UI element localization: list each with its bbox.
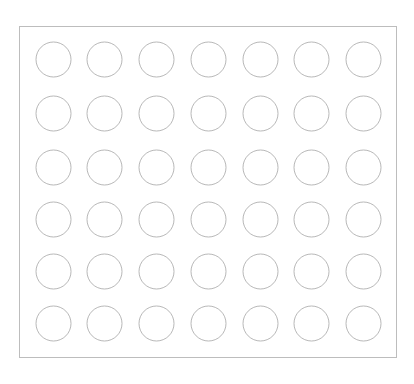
grid-cell-circle[interactable] [139, 150, 174, 185]
grid-cell-circle[interactable] [346, 150, 381, 185]
grid-cell-circle[interactable] [139, 96, 174, 131]
circle-grid [0, 0, 414, 384]
grid-cell-circle[interactable] [191, 254, 226, 289]
grid-cell-circle[interactable] [139, 254, 174, 289]
grid-cell-circle[interactable] [243, 254, 278, 289]
grid-cell-circle[interactable] [191, 306, 226, 341]
grid-cell-circle[interactable] [346, 96, 381, 131]
grid-cell-circle[interactable] [139, 202, 174, 237]
grid-cell-circle[interactable] [191, 202, 226, 237]
grid-cell-circle[interactable] [243, 150, 278, 185]
grid-cell-circle[interactable] [346, 254, 381, 289]
grid-cell-circle[interactable] [36, 150, 71, 185]
board-canvas [0, 0, 414, 384]
grid-cell-circle[interactable] [36, 306, 71, 341]
grid-cell-circle[interactable] [36, 202, 71, 237]
grid-cell-circle[interactable] [191, 96, 226, 131]
grid-cell-circle[interactable] [243, 306, 278, 341]
grid-cell-circle[interactable] [294, 42, 329, 77]
grid-cell-circle[interactable] [294, 150, 329, 185]
grid-cell-circle[interactable] [294, 306, 329, 341]
grid-cell-circle[interactable] [294, 202, 329, 237]
grid-cell-circle[interactable] [87, 202, 122, 237]
grid-cell-circle[interactable] [87, 150, 122, 185]
grid-cell-circle[interactable] [87, 42, 122, 77]
grid-cell-circle[interactable] [243, 202, 278, 237]
grid-cell-circle[interactable] [87, 96, 122, 131]
grid-cell-circle[interactable] [87, 254, 122, 289]
grid-cell-circle[interactable] [191, 150, 226, 185]
grid-cell-circle[interactable] [139, 42, 174, 77]
grid-cell-circle[interactable] [36, 96, 71, 131]
grid-cell-circle[interactable] [346, 306, 381, 341]
grid-cell-circle[interactable] [191, 42, 226, 77]
grid-cell-circle[interactable] [294, 254, 329, 289]
grid-cell-circle[interactable] [294, 96, 329, 131]
grid-cell-circle[interactable] [346, 42, 381, 77]
grid-cell-circle[interactable] [87, 306, 122, 341]
grid-cell-circle[interactable] [243, 42, 278, 77]
grid-cell-circle[interactable] [243, 96, 278, 131]
grid-cell-circle[interactable] [36, 254, 71, 289]
grid-cell-circle[interactable] [346, 202, 381, 237]
grid-cell-circle[interactable] [36, 42, 71, 77]
grid-cell-circle[interactable] [139, 306, 174, 341]
